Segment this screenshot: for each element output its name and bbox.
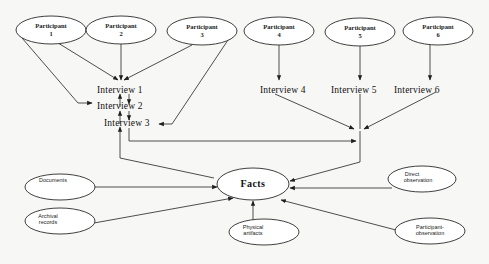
participant-node-2: Participant 2 <box>86 16 156 44</box>
edge-archival-facts <box>94 198 233 223</box>
participant-label: Participant <box>344 24 376 31</box>
edge-i6-merge <box>364 92 436 129</box>
participant-label: Participant <box>105 22 137 29</box>
edge-participantobs-facts <box>281 200 396 230</box>
participant-number: 2 <box>119 30 122 37</box>
edge-i4-merge <box>275 94 354 129</box>
edge-i13-merge <box>129 128 356 141</box>
interview-5-label: Interview 5 <box>331 85 377 95</box>
interview-2-label: Interview 2 <box>97 101 143 111</box>
participant-number: 1 <box>49 30 52 37</box>
source-node-archival-records: Archival records <box>25 208 95 234</box>
source-node-participant-observation: Participant- observation <box>395 218 465 244</box>
edge-p3-i3 <box>159 40 228 124</box>
participant-node-5: Participant 5 <box>325 18 395 46</box>
interview-4-label: Interview 4 <box>260 85 306 95</box>
participant-node-6: Participant 6 <box>403 17 473 45</box>
facts-node: Facts <box>217 168 289 200</box>
interview-6-label: Interview 6 <box>394 85 440 95</box>
participant-label: Participant <box>35 22 67 29</box>
participant-label: Participant <box>422 23 454 30</box>
source-node-physical-artifacts: Physical artifacts <box>229 219 299 245</box>
edges <box>22 38 436 230</box>
edge-facts-i13 <box>120 127 214 178</box>
edge-merge-facts <box>290 131 360 181</box>
participant-node-4: Participant 4 <box>244 17 314 45</box>
interview-1-label: Interview 1 <box>97 85 143 95</box>
source-node-documents: Documents <box>25 174 95 200</box>
source-label: Documents <box>39 177 67 183</box>
source-label-line2: observation <box>416 230 444 236</box>
edge-p1-i1 <box>50 38 118 80</box>
facts-label: Facts <box>241 178 266 189</box>
participant-label: Participant <box>186 23 218 30</box>
participant-node-1: Participant 1 <box>16 16 86 44</box>
interview-3-label: Interview 3 <box>104 118 150 128</box>
source-label-line2: observation <box>404 177 432 183</box>
source-label-line2: artifacts <box>243 230 263 236</box>
interview-labels: Interview 1 Interview 2 Interview 3 Inte… <box>97 85 440 128</box>
participant-label: Participant <box>263 23 295 30</box>
edge-p3-i1 <box>124 45 192 80</box>
source-node-direct-observation: Direct observation <box>388 166 456 192</box>
source-label-line2: records <box>39 219 58 225</box>
edge-p1-i2 <box>22 38 92 103</box>
research-diagram: Participant 1 Participant 2 Participant … <box>0 0 489 264</box>
participant-node-3: Participant 3 <box>167 17 237 45</box>
